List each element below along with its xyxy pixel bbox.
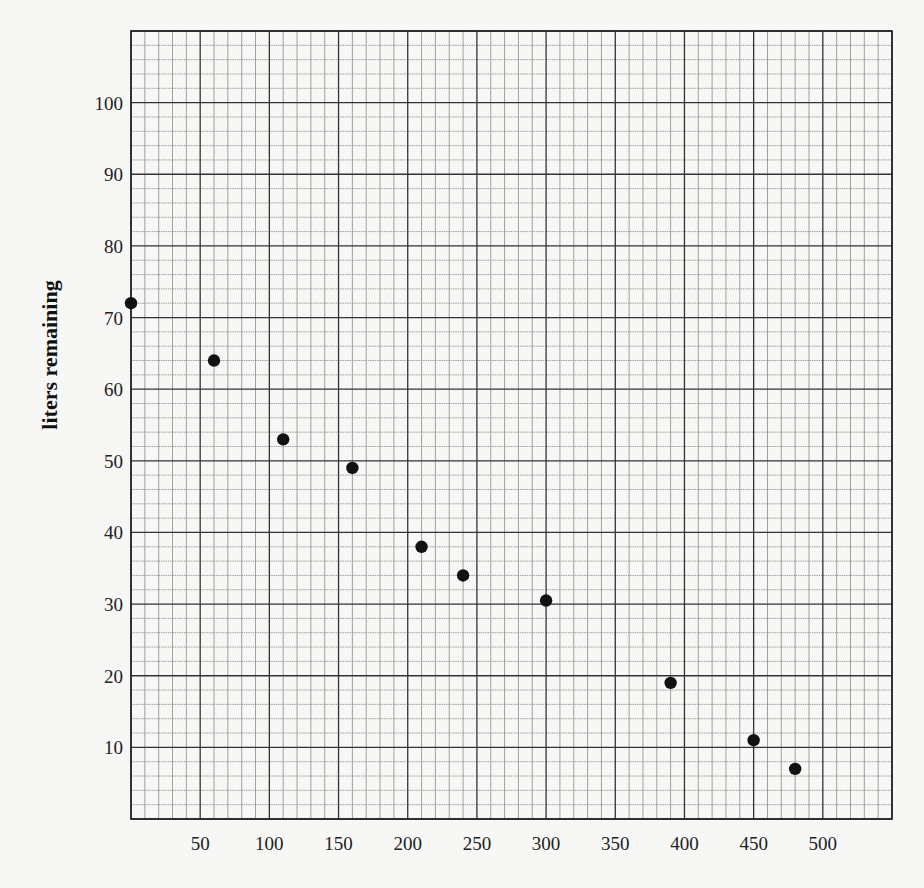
data-point xyxy=(208,354,220,366)
x-tick-label: 100 xyxy=(255,833,284,854)
y-tick-label: 60 xyxy=(104,379,123,400)
data-point xyxy=(664,677,676,689)
x-axis-tick-labels: 50100150200250300350400450500 xyxy=(191,833,837,854)
grid-minor-lines xyxy=(131,31,892,819)
data-point xyxy=(540,594,552,606)
y-axis-tick-labels: 102030405060708090100 xyxy=(95,93,124,759)
y-tick-label: 30 xyxy=(104,594,123,615)
x-tick-label: 350 xyxy=(601,833,630,854)
data-point xyxy=(346,462,358,474)
data-point xyxy=(747,734,759,746)
x-tick-label: 50 xyxy=(191,833,210,854)
plot-frame xyxy=(131,31,892,819)
y-axis-label: liters remaining xyxy=(37,280,62,429)
y-tick-label: 70 xyxy=(104,308,123,329)
data-point xyxy=(415,541,427,553)
y-tick-label: 90 xyxy=(104,164,123,185)
x-tick-label: 450 xyxy=(739,833,768,854)
x-tick-label: 250 xyxy=(463,833,492,854)
x-tick-label: 300 xyxy=(532,833,561,854)
y-tick-label: 10 xyxy=(104,737,123,758)
x-tick-label: 400 xyxy=(670,833,699,854)
x-tick-label: 200 xyxy=(393,833,422,854)
data-point xyxy=(789,763,801,775)
data-point xyxy=(457,569,469,581)
y-tick-label: 80 xyxy=(104,236,123,257)
data-point xyxy=(125,297,137,309)
x-tick-label: 500 xyxy=(809,833,838,854)
x-tick-label: 150 xyxy=(324,833,353,854)
y-tick-label: 100 xyxy=(95,93,124,114)
y-tick-label: 20 xyxy=(104,666,123,687)
grid-major-lines xyxy=(131,31,892,819)
scatter-chart: 50100150200250300350400450500 1020304050… xyxy=(0,0,924,888)
y-tick-label: 50 xyxy=(104,451,123,472)
data-point xyxy=(277,433,289,445)
y-tick-label: 40 xyxy=(104,522,123,543)
